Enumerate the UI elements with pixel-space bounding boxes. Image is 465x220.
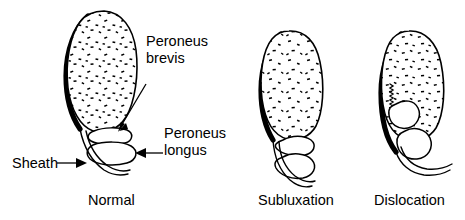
- panel-normal: [57, 5, 163, 175]
- label-peroneus-brevis-line1: Peroneus: [146, 33, 208, 50]
- label-peroneus-longus-line1: Peroneus: [164, 125, 226, 142]
- panel-subluxation: [255, 25, 335, 187]
- caption-normal: Normal: [88, 192, 135, 208]
- peroneus-longus-dislocation: [397, 129, 431, 160]
- label-peroneus-brevis-line2: brevis: [146, 50, 208, 67]
- peroneus-longus-subluxation: [275, 154, 315, 179]
- arrowhead-peroneus-longus: [135, 148, 146, 158]
- panel-dislocation: [375, 25, 455, 175]
- label-sheath: Sheath: [12, 155, 58, 172]
- caption-dislocation: Dislocation: [374, 192, 445, 208]
- arrowhead-sheath: [76, 158, 87, 168]
- peroneus-brevis-dislocation: [389, 101, 420, 128]
- label-peroneus-longus-line2: longus: [164, 142, 226, 159]
- figure-artwork: [0, 0, 465, 220]
- label-peroneus-longus: Peroneus longus: [164, 125, 226, 159]
- caption-subluxation: Subluxation: [258, 192, 334, 208]
- label-peroneus-brevis: Peroneus brevis: [146, 33, 208, 67]
- peroneal-tendon-figure: Peroneus brevis Peroneus longus Sheath N…: [0, 0, 465, 220]
